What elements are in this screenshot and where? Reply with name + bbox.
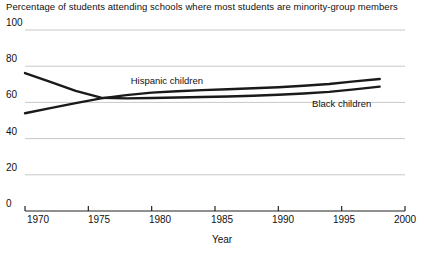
- x-axis-tick-label: 1980: [149, 214, 171, 225]
- y-axis-tick-label: 60: [6, 89, 17, 100]
- x-axis-tick-label: 1970: [27, 214, 49, 225]
- x-axis-tick-label: 1990: [272, 214, 294, 225]
- x-axis-tick-label: 1995: [333, 214, 355, 225]
- y-axis-tick-label: 80: [6, 53, 17, 64]
- x-axis-tick-label: 1985: [211, 214, 233, 225]
- series-label-black: Black children: [312, 98, 371, 109]
- y-axis-tick-label: 20: [6, 162, 17, 173]
- x-axis-tick-label: 2000: [394, 214, 416, 225]
- x-axis-title: Year: [212, 234, 232, 245]
- chart-container: Percentage of students attending schools…: [0, 0, 424, 264]
- y-axis-tick-label: 100: [6, 17, 23, 28]
- y-axis-tick-label: 0: [6, 198, 12, 209]
- y-axis-tick-label: 40: [6, 126, 17, 137]
- x-axis-tick-label: 1975: [88, 214, 110, 225]
- series-label-hispanic: Hispanic children: [131, 75, 203, 86]
